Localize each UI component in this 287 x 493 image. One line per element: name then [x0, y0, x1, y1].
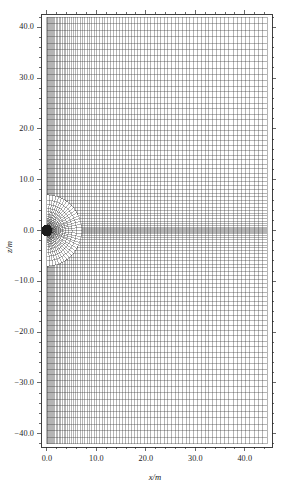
y-tick-label: −30.0 [0, 379, 34, 387]
x-tick-label: 10.0 [89, 455, 104, 463]
y-tick-label: 40.0 [0, 23, 34, 31]
y-tick-label: 0.0 [0, 226, 34, 234]
y-tick-label: 20.0 [0, 125, 34, 133]
y-axis-title: z/m [5, 241, 14, 253]
x-axis-title: x/m [149, 473, 161, 482]
mesh-core-blob [42, 224, 53, 236]
mesh-plot-canvas [0, 0, 287, 493]
x-tick-label: 0.0 [42, 455, 53, 463]
y-tick-label: 10.0 [0, 176, 34, 184]
x-tick-label: 40.0 [237, 455, 252, 463]
y-tick-label: −10.0 [0, 277, 34, 285]
y-tick-label: −40.0 [0, 430, 34, 438]
y-tick-label: 30.0 [0, 74, 34, 82]
mesh-figure: 40.030.020.010.00.0−10.0−20.0−30.0−40.0 … [0, 0, 287, 493]
x-tick-label: 20.0 [138, 455, 153, 463]
x-tick-label: 30.0 [188, 455, 203, 463]
y-tick-label: −20.0 [0, 328, 34, 336]
